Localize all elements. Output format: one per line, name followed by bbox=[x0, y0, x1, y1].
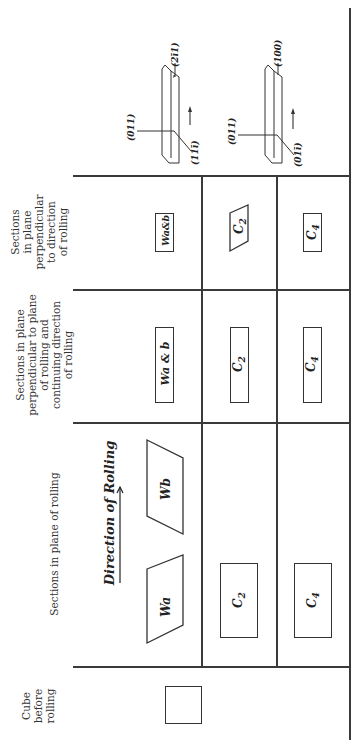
c2-label-perp-dir: C2 bbox=[232, 211, 248, 241]
miller-011-row1: (011) bbox=[126, 114, 136, 141]
header-plane: Sections in plane of rolling bbox=[48, 444, 62, 644]
table-right-border bbox=[349, 8, 351, 740]
c4-sub: 4 bbox=[310, 356, 320, 362]
header-perpcont-line: Sections in plane bbox=[14, 290, 26, 420]
miller-011-row2: (011) bbox=[227, 118, 237, 145]
header-cube-line: before bbox=[32, 676, 44, 736]
c2-sub: 2 bbox=[238, 218, 248, 224]
col-divider-perpdir-orient bbox=[73, 175, 350, 177]
c2-label-plane: C2 bbox=[231, 585, 247, 615]
orientation-sketch-row2: (011) (100) (01ī) bbox=[228, 55, 303, 170]
header-perpdir-line: in plane bbox=[21, 187, 33, 277]
header-perpcont-line: of rolling bbox=[62, 290, 74, 420]
miller-100: (100) bbox=[273, 40, 283, 67]
c4-sub: 4 bbox=[311, 224, 321, 230]
row-divider-header bbox=[73, 666, 350, 668]
c4-sub: 4 bbox=[311, 592, 321, 598]
c4-base: C bbox=[304, 363, 318, 373]
header-perp-dir: Sections in plane perpendicular to direc… bbox=[9, 187, 71, 277]
c2-sub: 2 bbox=[237, 356, 247, 362]
header-perpcont-line: of rolling and bbox=[38, 290, 50, 420]
c2-base: C bbox=[231, 363, 245, 373]
header-cube-line: rolling bbox=[44, 676, 56, 736]
header-perpdir-line: Sections bbox=[9, 187, 21, 277]
c2-base: C bbox=[231, 599, 245, 609]
header-perpcont-line: perpendicular to plane bbox=[26, 290, 38, 420]
c4-base: C bbox=[305, 599, 319, 609]
header-perp-cont: Sections in plane perpendicular to plane… bbox=[14, 290, 76, 420]
header-perpcont-line: continuing direction bbox=[50, 290, 62, 420]
header-cube-line: Cube bbox=[20, 676, 32, 736]
direction-arrow-icon bbox=[116, 485, 126, 585]
col-divider-perpcont-perpdir bbox=[73, 289, 350, 291]
wa-label: Wa bbox=[159, 592, 173, 622]
miller-2b11: (2ī1) bbox=[170, 43, 180, 67]
header-cube: Cube before rolling bbox=[20, 676, 60, 736]
c4-label-perp-dir: C4 bbox=[305, 217, 321, 247]
c2-base: C bbox=[232, 225, 246, 235]
header-perpdir-line: of rolling bbox=[57, 187, 69, 277]
c4-label-perp-cont: C4 bbox=[304, 349, 320, 379]
row-divider-1 bbox=[201, 175, 203, 666]
miller-111b: (11ī) bbox=[190, 141, 200, 165]
miller-011b: (01ī) bbox=[293, 143, 303, 167]
header-perpdir-line: to direction bbox=[45, 187, 57, 277]
orientation-sketch-row1: (011) (2ī1) (11ī) bbox=[125, 55, 200, 170]
cube-square bbox=[165, 686, 202, 724]
c2-label-perp-cont: C2 bbox=[231, 349, 247, 379]
wab-label-perp-cont: Wa & b bbox=[159, 329, 172, 399]
c4-label-plane: C4 bbox=[305, 585, 321, 615]
header-plane-line: Sections in plane of rolling bbox=[48, 444, 60, 644]
wb-label: Wb bbox=[159, 474, 173, 504]
row-divider-2 bbox=[276, 175, 278, 666]
c2-sub: 2 bbox=[237, 592, 247, 598]
c4-base: C bbox=[305, 231, 319, 241]
header-perpdir-line: perpendicular bbox=[33, 187, 45, 277]
wab-label-perp-dir: Wa&b bbox=[160, 206, 171, 256]
col-divider-plane-perpcont bbox=[73, 422, 350, 424]
